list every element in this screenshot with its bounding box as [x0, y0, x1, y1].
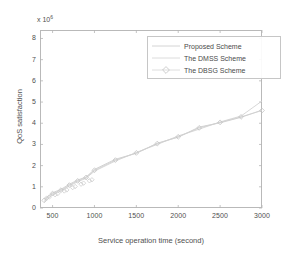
y-tick-label: 8	[20, 34, 36, 41]
legend-item-2: The DBSG Scheme	[148, 64, 280, 76]
legend-label-2: The DBSG Scheme	[184, 67, 245, 74]
y-tick-label: 6	[20, 77, 36, 84]
legend-marker-dbsg-scheme	[148, 64, 184, 76]
x-tick-label: 3000	[245, 212, 279, 219]
x-tick-label: 1500	[119, 212, 153, 219]
x-tick-label: 2000	[161, 212, 195, 219]
y-tick-label: 4	[20, 119, 36, 126]
legend-item-0: Proposed Scheme	[148, 40, 280, 52]
y-tick-label: 5	[20, 98, 36, 105]
x-tick-label: 1000	[77, 212, 111, 219]
y-tick-label: 7	[20, 56, 36, 63]
figure: x 106 QoS satisfaction Service operation…	[0, 0, 291, 259]
y-tick-label: 2	[20, 162, 36, 169]
legend: Proposed Scheme The DMSS Scheme The DBSG…	[147, 36, 281, 79]
legend-item-1: The DMSS Scheme	[148, 52, 280, 64]
legend-label-1: The DMSS Scheme	[184, 55, 246, 62]
y-tick-label: 1	[20, 183, 36, 190]
x-axis-title: Service operation time (second)	[40, 236, 262, 245]
x-tick-label: 2500	[203, 212, 237, 219]
y-axis-title: QoS satisfaction	[15, 57, 24, 177]
legend-label-0: Proposed Scheme	[184, 43, 242, 50]
legend-marker-proposed-scheme	[148, 40, 184, 52]
y-tick-label: 0	[20, 204, 36, 211]
y-tick-label: 3	[20, 140, 36, 147]
legend-marker-dmss-scheme	[148, 52, 184, 64]
x-tick-label: 500	[36, 212, 70, 219]
